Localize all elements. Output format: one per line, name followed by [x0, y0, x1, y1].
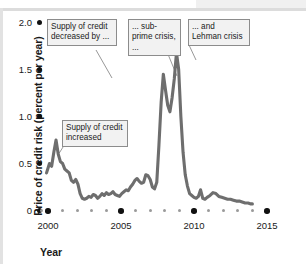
annotation-lehman: ... and Lehman crisis	[188, 19, 250, 46]
credit-risk-chart-figure: Price of credit risk (percent per year) …	[0, 0, 306, 264]
annotation-supply-decreased: Supply of credit decreased by ...	[47, 19, 117, 46]
annotation-subprime: ... sub-prime crisis, ...	[128, 19, 181, 56]
leader-line-lehman	[189, 45, 196, 60]
leader-line-supply-decreased	[96, 50, 112, 78]
annotation-supply-increased: Supply of credit increased	[62, 120, 128, 147]
